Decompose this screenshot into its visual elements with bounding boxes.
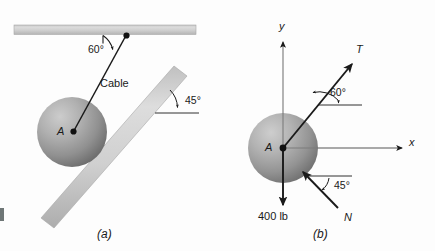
point-a-dot-b <box>280 145 287 152</box>
label-axis-x: x <box>409 137 415 148</box>
point-a-dot <box>70 128 76 134</box>
label-point-a: A <box>57 126 64 137</box>
caption-a: (a) <box>97 228 112 240</box>
label-axis-y: y <box>279 21 285 32</box>
label-point-a-b: A <box>265 142 272 153</box>
normal-arrow <box>303 172 338 208</box>
ceiling-bar <box>14 25 196 35</box>
label-angle-45-a: 45° <box>185 95 201 106</box>
cable-anchor-dot <box>123 32 129 38</box>
tension-arrow <box>283 64 352 148</box>
panel-b-group <box>248 42 402 208</box>
angle-marker-60-a <box>103 36 113 50</box>
figure-canvas <box>0 0 435 251</box>
panel-a-group <box>14 25 199 228</box>
label-tension-t: T <box>356 44 363 55</box>
label-normal-n: N <box>344 212 352 223</box>
label-angle-60-b: 60° <box>330 87 346 98</box>
label-angle-60-a: 60° <box>88 44 104 55</box>
label-angle-45-b: 45° <box>334 180 350 191</box>
label-weight: 400 lb <box>258 211 288 222</box>
label-cable: Cable <box>100 78 129 89</box>
caption-b: (b) <box>313 228 328 240</box>
figure-container: 60° Cable A 45° (a) y x T 60° A 45° N 40… <box>0 0 435 251</box>
